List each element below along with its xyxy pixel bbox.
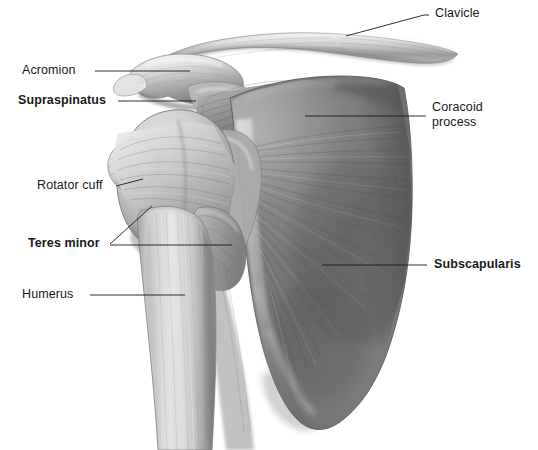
label-supraspinatus: Supraspinatus: [18, 93, 106, 108]
label-acromion: Acromion: [22, 63, 76, 78]
label-coracoid-process-line1: Coracoid: [432, 100, 483, 115]
label-coracoid-process: Coracoid process: [432, 100, 483, 130]
label-teres-minor: Teres minor: [28, 236, 100, 251]
label-rotator-cuff: Rotator cuff: [37, 178, 103, 193]
label-clavicle: Clavicle: [435, 6, 480, 21]
label-coracoid-process-line2: process: [432, 115, 483, 130]
anatomy-figure: Clavicle Acromion Supraspinatus Coracoid…: [0, 0, 538, 450]
label-subscapularis: Subscapularis: [434, 257, 521, 272]
label-humerus: Humerus: [22, 287, 73, 302]
anatomy-illustration: [0, 0, 538, 450]
